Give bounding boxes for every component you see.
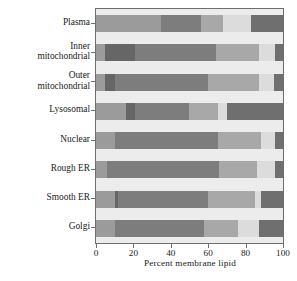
bar-segment[interactable]	[96, 161, 107, 178]
bar-segment[interactable]	[201, 15, 223, 32]
stacked-bar[interactable]	[96, 132, 283, 149]
bar-segment[interactable]	[208, 74, 258, 91]
plot-area	[95, 8, 284, 244]
bar-row[interactable]	[96, 44, 283, 61]
bar-segment[interactable]	[115, 132, 218, 149]
bar-segment[interactable]	[115, 74, 209, 91]
bar-segment[interactable]	[115, 220, 205, 237]
y-axis-tick-label: Smooth ER	[4, 192, 90, 203]
bar-segment[interactable]	[96, 44, 105, 61]
x-axis-tick-label: 0	[94, 248, 99, 258]
bar-segment[interactable]	[96, 220, 115, 237]
bar-segment[interactable]	[96, 103, 126, 120]
x-axis-tick-label: 40	[166, 248, 175, 258]
bar-segment[interactable]	[275, 132, 282, 149]
x-axis-tick-label: 100	[276, 248, 290, 258]
bar-segment[interactable]	[251, 15, 283, 32]
y-axis-tick-label: Plasma	[4, 17, 90, 28]
y-axis-tick-label: Nuclear	[4, 134, 90, 145]
stacked-bar[interactable]	[96, 161, 283, 178]
x-axis-tick-label: 80	[241, 248, 250, 258]
bar-segment[interactable]	[274, 74, 283, 91]
bar-segment[interactable]	[259, 74, 274, 91]
bar-segment[interactable]	[257, 161, 276, 178]
bar-segment[interactable]	[161, 15, 200, 32]
bar-segment[interactable]	[135, 44, 215, 61]
bar-segment[interactable]	[96, 132, 115, 149]
bar-segment[interactable]	[204, 220, 238, 237]
bar-segment[interactable]	[238, 220, 259, 237]
stacked-bar[interactable]	[96, 220, 283, 237]
bar-segment[interactable]	[135, 103, 189, 120]
x-axis-title: Percent membrane lipid	[95, 258, 285, 268]
bar-segment[interactable]	[189, 103, 217, 120]
bar-segment[interactable]	[107, 161, 219, 178]
stacked-bar[interactable]	[96, 44, 283, 61]
bar-segment[interactable]	[218, 132, 261, 149]
bar-segment[interactable]	[275, 44, 282, 61]
y-axis-tick-label: Rough ER	[4, 163, 90, 174]
y-axis-tick-label: Golgi	[4, 221, 90, 232]
bar-segment[interactable]	[96, 74, 105, 91]
bar-segment[interactable]	[96, 191, 115, 208]
bar-segment[interactable]	[96, 15, 161, 32]
bar-row[interactable]	[96, 74, 283, 91]
bar-row[interactable]	[96, 132, 283, 149]
bar-segment[interactable]	[261, 191, 283, 208]
bar-row[interactable]	[96, 191, 283, 208]
bar-row[interactable]	[96, 103, 283, 120]
bar-segment[interactable]	[126, 103, 135, 120]
bar-segment[interactable]	[105, 44, 135, 61]
bar-segment[interactable]	[259, 44, 276, 61]
bar-chart-figure: Rat hepatocyte membrane type PlasmaInner…	[0, 0, 297, 281]
bar-segment[interactable]	[223, 15, 251, 32]
stacked-bar[interactable]	[96, 103, 283, 120]
bar-segment[interactable]	[227, 103, 283, 120]
bar-row[interactable]	[96, 15, 283, 32]
bar-segment[interactable]	[105, 74, 114, 91]
bar-segment[interactable]	[219, 161, 256, 178]
bar-segment[interactable]	[259, 220, 283, 237]
bar-segment[interactable]	[118, 191, 208, 208]
bar-row[interactable]	[96, 220, 283, 237]
x-axis-tick-label: 20	[129, 248, 138, 258]
stacked-bar[interactable]	[96, 74, 283, 91]
bar-segment[interactable]	[216, 44, 259, 61]
bar-row[interactable]	[96, 161, 283, 178]
y-axis-tick-label: Outermitochondrial	[4, 70, 90, 92]
y-axis-tick-label: Lysosomal	[4, 104, 90, 115]
x-axis-tick-label: 60	[204, 248, 213, 258]
y-axis-tick-label: Innermitochondrial	[4, 41, 90, 63]
bar-segment[interactable]	[261, 132, 276, 149]
stacked-bar[interactable]	[96, 15, 283, 32]
bar-segment[interactable]	[218, 103, 227, 120]
stacked-bar[interactable]	[96, 191, 283, 208]
bar-segment[interactable]	[208, 191, 255, 208]
bar-segment[interactable]	[275, 161, 282, 178]
